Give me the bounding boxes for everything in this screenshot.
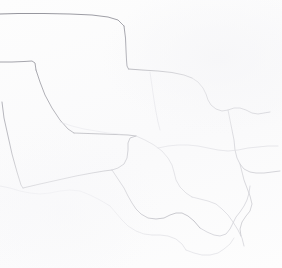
map-vector-layer bbox=[0, 0, 282, 268]
new-mexico-north-border bbox=[0, 14, 124, 27]
oklahoma-panhandle-west-border bbox=[124, 26, 129, 69]
mexico-south-detail bbox=[110, 206, 186, 250]
sabine-river-louisiana-border bbox=[240, 164, 252, 236]
red-river-texas-oklahoma-border bbox=[192, 78, 270, 114]
panhandle-east-faint bbox=[150, 72, 160, 130]
texas-panhandle-north-border bbox=[129, 69, 193, 78]
gulf-shoreline-faint bbox=[186, 238, 234, 255]
texas-interior-faint bbox=[60, 122, 120, 134]
map-canvas[interactable]: Southwest United States Boundary Outline bbox=[0, 0, 282, 268]
rio-grande-upper-texas-border bbox=[112, 136, 136, 170]
mexico-state-line-south bbox=[0, 186, 110, 206]
arkansas-louisiana-west-border bbox=[228, 110, 280, 173]
new-mexico-south-border bbox=[23, 170, 112, 188]
new-mexico-texas-diagonal bbox=[36, 70, 74, 133]
mexico-interior-boundary-b bbox=[192, 197, 244, 246]
rio-grande-big-bend bbox=[112, 170, 200, 228]
texas-west-lower-horizontal bbox=[74, 133, 136, 136]
new-mexico-texas-step-upper bbox=[0, 61, 36, 70]
gulf-coast-texas bbox=[200, 186, 250, 236]
new-mexico-west-border bbox=[2, 102, 23, 188]
mexico-state-line-north bbox=[158, 145, 278, 151]
